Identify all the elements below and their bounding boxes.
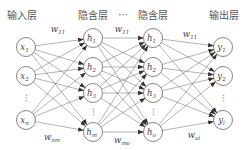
output-node-yl: yl: [214, 111, 233, 130]
edge: [34, 52, 85, 87]
weight-label-bottom-mid: wmo: [114, 135, 130, 146]
hidden2-node-ho: ho: [144, 123, 163, 142]
weight-label-top-left: w11: [51, 24, 65, 35]
connection-edges: [32, 38, 217, 132]
hidden1-node-h2: h2: [84, 58, 103, 77]
edge: [35, 122, 83, 131]
input-node-x2: x2: [17, 67, 36, 86]
output-node-y1: y1: [214, 38, 233, 57]
hidden1-node-hm: hm: [84, 123, 103, 142]
output-layer-header: 输出层: [209, 9, 239, 21]
input-node-xn: xn: [17, 111, 36, 130]
hidden1-node-h1: h1: [84, 29, 103, 48]
hidden-layer-1-header: 隐含层: [78, 9, 108, 21]
hidden2-node-h1: h1: [144, 29, 163, 48]
edge: [162, 68, 213, 75]
edge: [35, 68, 83, 74]
vertical-ellipsis: ···: [88, 108, 98, 117]
weight-label-top-mid: w11: [115, 24, 129, 35]
edge: [159, 45, 217, 113]
input-layer-header: 输入层: [7, 9, 37, 21]
weight-label-top-right: w11: [183, 29, 197, 40]
vertical-ellipsis: ···: [148, 108, 158, 117]
output-node-y2: y2: [214, 67, 233, 86]
weight-label-bottom-right: wol: [188, 130, 201, 141]
edge: [160, 82, 215, 126]
hidden2-node-h3: h3: [144, 84, 163, 103]
layer-ellipsis: ···: [118, 9, 128, 20]
edge: [34, 43, 84, 72]
hidden2-node-h2: h2: [144, 58, 163, 77]
edge: [162, 39, 213, 46]
vertical-ellipsis: ···: [21, 94, 31, 103]
hidden-layer-2-header: 隐含层: [138, 9, 168, 21]
weight-label-bottom-left: wnm: [44, 132, 60, 143]
vertical-ellipsis: ···: [218, 94, 228, 103]
edge: [35, 97, 84, 117]
neural-network-diagram: x1x2···xnh1h2h3···hmh1h2h3···hoy1y2···yl…: [0, 0, 243, 150]
edge: [162, 96, 214, 116]
edge: [161, 52, 215, 88]
edge: [162, 50, 214, 65]
edge: [33, 82, 85, 126]
network-nodes: x1x2···xnh1h2h3···hmh1h2h3···hoy1y2···yl: [17, 29, 233, 142]
hidden1-node-h3: h3: [84, 84, 103, 103]
input-node-x1: x1: [17, 38, 36, 57]
edge: [32, 45, 87, 112]
edge: [35, 39, 83, 45]
